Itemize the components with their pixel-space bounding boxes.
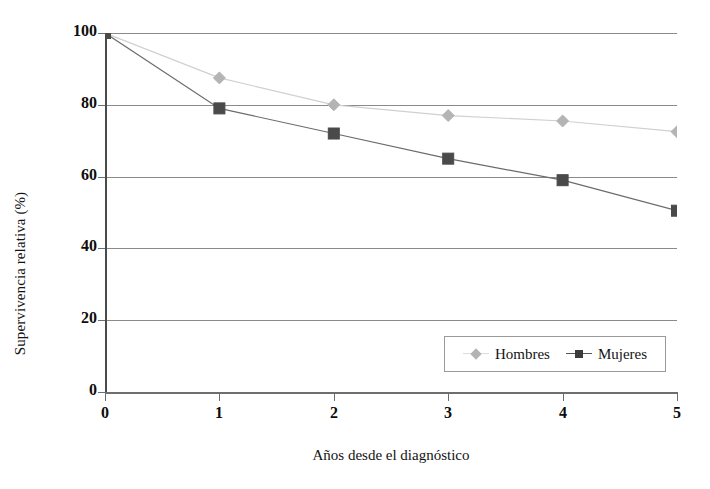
legend: Hombres Mujeres <box>444 336 666 372</box>
legend-label-mujeres: Mujeres <box>598 346 647 363</box>
data-point-mujeres <box>328 128 339 139</box>
data-point-hombres <box>328 99 340 111</box>
legend-item-hombres[interactable]: Hombres <box>463 346 550 363</box>
diamond-marker-icon <box>463 347 489 361</box>
data-point-mujeres <box>672 205 678 216</box>
x-tick-label: 4 <box>543 404 583 422</box>
series-line-mujeres <box>105 33 677 211</box>
x-tick-mark <box>677 392 678 401</box>
y-tick-label: 20 <box>45 309 97 327</box>
x-axis-line <box>105 392 678 394</box>
data-point-hombres <box>442 110 454 122</box>
data-point-mujeres <box>557 175 568 186</box>
y-axis-title-text: Supervivencia relativa (%) <box>12 192 29 355</box>
y-tick-label: 60 <box>45 166 97 184</box>
x-tick-label: 2 <box>314 404 354 422</box>
y-tick-label: 0 <box>45 381 97 399</box>
data-point-mujeres <box>443 153 454 164</box>
y-axis-title: Supervivencia relativa (%) <box>0 0 40 489</box>
data-point-hombres <box>671 126 677 138</box>
data-point-hombres <box>213 72 225 84</box>
x-tick-mark <box>219 392 220 401</box>
data-point-mujeres <box>105 33 111 39</box>
x-tick-label: 0 <box>85 404 125 422</box>
data-point-hombres <box>557 115 569 127</box>
relative-survival-line-chart: Supervivencia relativa (%) 020406080100 … <box>0 0 710 489</box>
x-tick-mark <box>105 392 106 401</box>
y-tick-label: 80 <box>45 94 97 112</box>
legend-item-mujeres[interactable]: Mujeres <box>566 346 647 363</box>
data-point-mujeres <box>214 103 225 114</box>
x-tick-label: 1 <box>199 404 239 422</box>
square-marker-icon <box>566 347 592 361</box>
x-axis-title: Años desde el diagnóstico <box>105 447 677 464</box>
x-tick-mark <box>563 392 564 401</box>
x-tick-mark <box>334 392 335 401</box>
legend-label-hombres: Hombres <box>495 346 550 363</box>
y-tick-label: 100 <box>45 22 97 40</box>
x-tick-label: 5 <box>657 404 697 422</box>
x-tick-mark <box>448 392 449 401</box>
x-tick-label: 3 <box>428 404 468 422</box>
series-line-hombres <box>105 33 677 132</box>
y-tick-label: 40 <box>45 237 97 255</box>
